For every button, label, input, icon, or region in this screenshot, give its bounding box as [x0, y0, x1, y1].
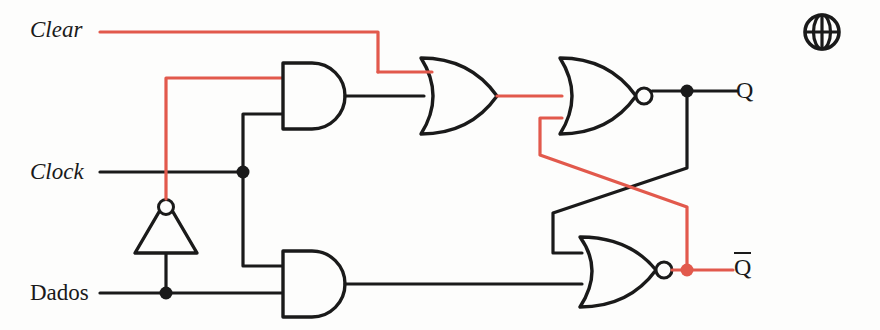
input-label-clock: Clock: [30, 160, 84, 183]
and-gate-top-body: [283, 63, 345, 129]
inverter-bubble-icon: [159, 200, 174, 215]
wire-clear-input: [100, 32, 378, 72]
junction-dot-qbar: [681, 264, 694, 277]
wire-inverter-to-and-top: [166, 78, 283, 199]
junction-dot-q: [681, 85, 694, 98]
globe-icon: [800, 10, 844, 54]
output-label-qbar: Q: [734, 252, 751, 279]
and-gate-bottom: [283, 251, 345, 317]
junction-dot-dados: [160, 287, 173, 300]
wire-clock-to-and-top: [243, 114, 283, 172]
circuit-schematic: .w { fill:none; stroke:#1a1a1a; stroke-w…: [0, 0, 880, 330]
nor-gate-bottom: [580, 237, 672, 307]
and-gate-bottom-body: [283, 251, 345, 317]
or-gate-top-body: [421, 58, 497, 134]
nor-gate-bottom-bubble-icon: [656, 262, 672, 278]
or-gate-top: [421, 58, 497, 134]
inverter-gate: [135, 200, 197, 254]
output-label-qbar-text: Q: [734, 252, 751, 279]
input-label-dados: Dados: [30, 281, 89, 304]
nor-gate-bottom-body: [580, 237, 656, 307]
nor-gate-top-body: [560, 58, 636, 134]
output-label-q: Q: [736, 78, 753, 102]
junction-dot-clock: [237, 166, 250, 179]
nor-gate-top-bubble-icon: [636, 88, 652, 104]
input-label-clear: Clear: [30, 18, 82, 41]
and-gate-top: [283, 63, 345, 129]
circuit-diagram-canvas: .w { fill:none; stroke:#1a1a1a; stroke-w…: [0, 0, 880, 330]
wire-clock-to-and-bottom: [243, 172, 283, 266]
nor-gate-top: [560, 58, 652, 134]
